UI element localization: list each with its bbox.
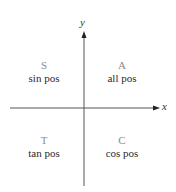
axes-diagram [0,0,176,192]
quadrant-ii: S sin pos [14,59,74,85]
quadrant-description: tan pos [14,147,74,160]
quadrant-letter: S [14,59,74,72]
quadrant-iii: T tan pos [14,134,74,160]
x-axis-arrowhead [153,106,160,111]
quadrant-iv: C cos pos [92,134,152,160]
quadrant-letter: C [92,134,152,147]
y-axis-label: y [80,16,85,28]
quadrant-letter: T [14,134,74,147]
y-axis-arrowhead [82,31,87,38]
quadrant-description: sin pos [14,72,74,85]
quadrant-description: cos pos [92,147,152,160]
x-axis-label: x [162,100,167,112]
quadrant-letter: A [92,59,152,72]
quadrant-description: all pos [92,72,152,85]
quadrant-i: A all pos [92,59,152,85]
